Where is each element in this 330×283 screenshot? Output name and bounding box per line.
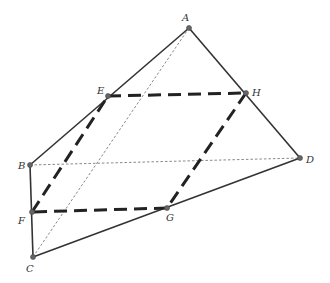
label-A: A bbox=[181, 12, 189, 23]
label-G: G bbox=[166, 212, 174, 223]
tetrahedron-diagram: A B C D E F G H bbox=[0, 0, 330, 283]
point-E bbox=[106, 94, 111, 99]
label-F: F bbox=[17, 215, 26, 226]
cross-section-EHGF bbox=[32, 93, 246, 212]
section-edge-HG bbox=[167, 93, 246, 208]
vertices bbox=[28, 26, 303, 260]
label-D: D bbox=[305, 154, 314, 165]
edge-BD bbox=[30, 158, 300, 165]
point-F bbox=[30, 210, 35, 215]
labels: A B C D E F G H bbox=[17, 12, 314, 274]
section-edge-EH bbox=[108, 93, 246, 96]
point-A bbox=[187, 26, 192, 31]
label-H: H bbox=[251, 87, 261, 98]
point-B bbox=[28, 163, 33, 168]
label-B: B bbox=[17, 160, 25, 171]
point-D bbox=[298, 156, 303, 161]
label-E: E bbox=[96, 85, 105, 96]
point-C bbox=[31, 255, 36, 260]
hidden-edges bbox=[30, 28, 300, 257]
label-C: C bbox=[26, 263, 34, 274]
point-H bbox=[244, 91, 249, 96]
point-G bbox=[165, 206, 170, 211]
solid-edges bbox=[30, 28, 300, 257]
section-edge-GF bbox=[32, 208, 167, 212]
